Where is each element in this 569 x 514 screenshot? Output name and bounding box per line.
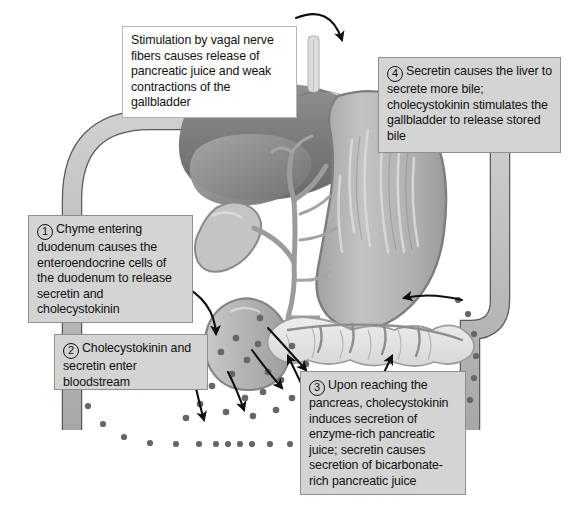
callout-text: Secretin causes the liver to secrete mor… (387, 64, 552, 143)
callout-number-4: 4 (387, 66, 403, 82)
callout-hormones-bloodstream: 2Cholecystokinin and secretin enter bloo… (54, 334, 208, 390)
callout-number-2: 2 (63, 343, 79, 359)
gallbladder (195, 202, 261, 271)
callout-text: Upon reaching the pancreas, cholecystoki… (309, 378, 448, 488)
callout-vagal-stimulation: Stimulation by vagal nerve fibers causes… (122, 26, 297, 118)
callout-text: Cholecystokinin and secretin enter blood… (63, 341, 191, 389)
callout-secretin-bile: 4Secretin causes the liver to secrete mo… (378, 57, 561, 153)
callout-chyme-duodenum: 1Chyme entering duodenum causes the ente… (28, 215, 193, 323)
vagus-nerve (308, 36, 319, 92)
callout-pancreas-secretion: 3Upon reaching the pancreas, cholecystok… (300, 371, 466, 495)
callout-text: Stimulation by vagal nerve fibers causes… (131, 33, 274, 109)
callout-text: Chyme entering duodenum causes the enter… (37, 222, 172, 316)
pancreas (267, 317, 474, 366)
figure-canvas: Stimulation by vagal nerve fibers causes… (0, 0, 569, 514)
callout-number-3: 3 (309, 380, 325, 396)
callout-number-1: 1 (37, 224, 53, 240)
arrow-vagal (296, 14, 342, 40)
